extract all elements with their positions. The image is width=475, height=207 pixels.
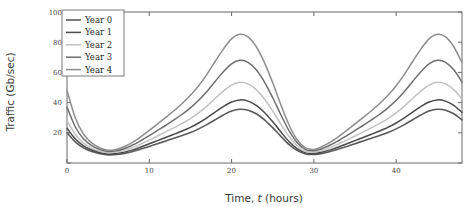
x-tick-label: 10 [145,167,154,175]
y-axis-label: Traffic (Gb/sec) [4,52,16,132]
plot-border [67,12,462,163]
x-tick-label: 0 [65,167,69,175]
legend-label-year-3: Year 3 [84,52,112,62]
chart-figure: 20406080100 010203040 Year 0Year 1Year 2… [0,0,475,207]
x-tick-label: 40 [392,167,401,175]
traffic-line-chart: 20406080100 010203040 Year 0Year 1Year 2… [0,0,475,207]
x-label-prefix: Time, [224,192,257,204]
x-tick-label: 20 [227,167,236,175]
y-tick-label: 40 [53,99,62,107]
y-tick-label: 20 [53,129,62,137]
legend-label-year-4: Year 4 [84,65,112,75]
legend-label-year-0: Year 0 [84,15,112,25]
series-line-year-3 [67,60,462,151]
y-tick-label: 80 [53,39,62,47]
series-lines [67,34,462,155]
y-tick-label: 60 [53,69,62,77]
legend-label-year-2: Year 2 [84,40,112,50]
plot-frame [67,12,462,163]
legend-label-year-1: Year 1 [84,27,112,37]
y-tick-label: 100 [49,9,62,17]
x-label-suffix: (hours) [262,192,303,204]
x-tick-label: 30 [309,167,318,175]
chart-legend: Year 0Year 1Year 2Year 3Year 4 [62,10,124,76]
x-axis-label: Time, t (hours) [224,192,303,204]
